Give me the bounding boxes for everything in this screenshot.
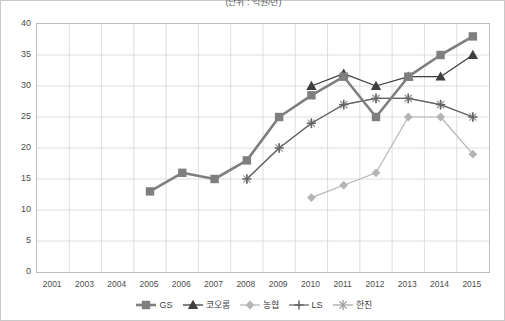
legend-label: LS — [312, 300, 323, 310]
y-axis-tick-label: 15 — [3, 174, 31, 183]
legend-marker-icon — [135, 299, 157, 311]
x-axis-tick-label: 2015 — [450, 279, 494, 289]
y-axis-tick-label: 30 — [3, 81, 31, 90]
data-series-layer — [37, 24, 489, 272]
y-axis-tick-label: 20 — [3, 143, 31, 152]
chart-title: (단위 : 억원/년) — [1, 0, 505, 8]
y-axis-tick-label: 5 — [3, 236, 31, 245]
y-axis-tick-label: 25 — [3, 112, 31, 121]
legend-label: 코오롱 — [206, 298, 230, 311]
legend-marker-icon — [239, 299, 261, 311]
chart-legend: GS코오롱농협LS한진 — [1, 298, 505, 311]
legend-marker-icon — [332, 299, 354, 311]
y-axis-tick-label: 0 — [3, 267, 31, 276]
y-axis-tick-label: 40 — [3, 19, 31, 28]
legend-item-hanjin[interactable]: 한진 — [332, 298, 372, 311]
legend-label: 한진 — [356, 298, 372, 311]
legend-item-ls[interactable]: LS — [288, 299, 323, 311]
plot-area — [36, 23, 490, 273]
legend-label: GS — [159, 300, 172, 310]
y-axis-tick-label: 35 — [3, 50, 31, 59]
chart-frame: (단위 : 억원/년) 0510152025303540 20012003200… — [0, 0, 505, 321]
legend-item-kolon[interactable]: 코오롱 — [182, 298, 230, 311]
legend-marker-icon — [182, 299, 204, 311]
legend-label: 농협 — [263, 298, 279, 311]
legend-item-gs[interactable]: GS — [135, 299, 172, 311]
legend-marker-icon — [288, 299, 310, 311]
legend-item-nonghyup[interactable]: 농협 — [239, 298, 279, 311]
y-axis-tick-label: 10 — [3, 205, 31, 214]
